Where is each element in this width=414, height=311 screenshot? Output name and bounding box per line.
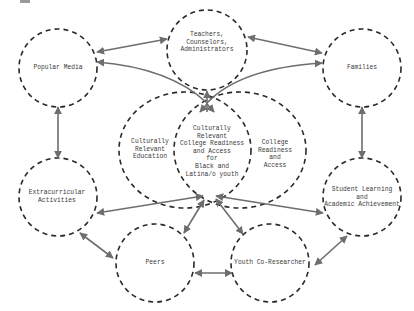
label-teachers: Teachers, Counselors, Administrators (181, 31, 234, 54)
label-youth-co-researcher: Youth Co-Researcher (234, 259, 306, 267)
label-popular-media: Popular Media (33, 64, 82, 72)
edge-peers-core (184, 200, 204, 233)
label-culturally-relevant-education: Culturally Relevant Education (131, 138, 169, 161)
edge-extracurricular-peers (80, 233, 113, 258)
label-peers: Peers (146, 259, 165, 267)
label-student-learning: Student Learning and Academic Achievemen… (324, 186, 400, 209)
edge-youth-co-researcher-student-learning (315, 236, 347, 265)
label-core: Culturally Relevant College Readiness an… (180, 125, 244, 178)
edge-teachers-families (248, 37, 322, 53)
edge-hub-fan-left (200, 104, 207, 112)
edge-hub-fan-right (207, 104, 214, 112)
edge-extracurricular-core (97, 196, 203, 213)
edge-core-popular-media (97, 62, 207, 103)
label-college-readiness: College Readiness and Access (258, 139, 292, 169)
label-extracurricular: Extracurricular Activities (29, 189, 86, 204)
edge-youth-co-researcher-core (216, 199, 243, 234)
edge-student-learning-core (216, 196, 323, 213)
edge-popular-media-teachers (97, 39, 167, 52)
edge-core-families (207, 63, 322, 103)
label-families: Families (347, 64, 377, 72)
